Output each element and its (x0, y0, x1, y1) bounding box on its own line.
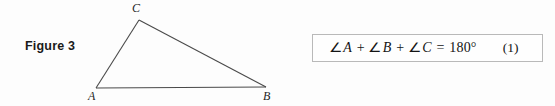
angle-symbol-a: ∠ (329, 40, 344, 56)
equation-value: 180° (449, 40, 476, 55)
triangle-svg (0, 0, 300, 106)
triangle-edge-ab (96, 87, 266, 88)
triangle-diagram: C A B (0, 0, 300, 106)
angle-symbol-b: ∠ (368, 40, 383, 56)
equation-number: (1) (503, 40, 519, 56)
equation-operator-1: + (356, 40, 366, 55)
equation-variable-a: A (343, 40, 352, 55)
angle-symbol-c: ∠ (408, 40, 423, 56)
vertex-label-a: A (88, 89, 95, 104)
equation-box: ∠A + ∠B + ∠C = 180° (1) (312, 34, 543, 62)
equation-variable-c: C (422, 40, 432, 55)
equation-operator-2: + (395, 40, 405, 55)
equation-expression: ∠A + ∠B + ∠C = 180° (330, 40, 477, 56)
figure-panel: Figure 3 C A B ∠A + ∠B + ∠C = 180° (1) (0, 0, 555, 106)
equation-variable-b: B (383, 40, 392, 55)
triangle-edge-cb (139, 20, 266, 87)
vertex-label-b: B (263, 89, 270, 104)
vertex-label-c: C (132, 1, 140, 16)
equation-equals-sign: = (435, 40, 445, 55)
triangle-edge-ac (96, 20, 139, 88)
